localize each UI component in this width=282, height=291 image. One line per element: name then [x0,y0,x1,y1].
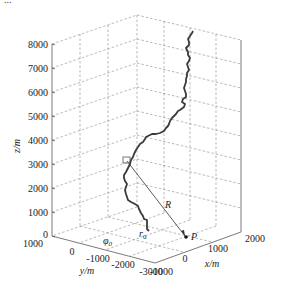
svg-text:8000: 8000 [28,39,48,50]
trajectory-line [124,31,193,231]
svg-text:1000: 1000 [23,238,43,249]
label-r0: r0 [139,228,147,241]
caption-fragment: ... [4,0,12,5]
svg-text:-2000: -2000 [111,259,134,270]
svg-text:0: 0 [183,253,188,264]
label-r: R [164,199,171,210]
svg-text:7000: 7000 [28,63,48,74]
svg-text:-1000: -1000 [150,266,173,277]
z-axis-label: z/m [11,139,22,154]
label-phi0: φ0 [103,235,113,248]
svg-text:2000: 2000 [28,183,48,194]
x-tick-labels: -1000 0 1000 2000 [150,233,265,277]
square-marker [123,157,130,163]
svg-text:3000: 3000 [28,159,48,170]
x-axis-label: x/m [204,258,219,269]
svg-text:2000: 2000 [245,233,265,244]
3d-trajectory-chart: ... [0,0,282,291]
z-tick-labels: 8000 7000 6000 5000 4000 3000 2000 1000 … [28,39,48,240]
svg-text:0: 0 [70,246,75,257]
r-line [127,161,185,236]
svg-text:5000: 5000 [28,111,48,122]
svg-text:4000: 4000 [28,135,48,146]
svg-text:-1000: -1000 [86,253,109,264]
svg-text:1000: 1000 [208,243,228,254]
svg-text:0: 0 [43,229,48,240]
label-p: P [190,231,197,242]
point-p [184,235,188,239]
y-axis-label: y/m [79,265,94,276]
svg-text:6000: 6000 [28,87,48,98]
svg-text:1000: 1000 [28,207,48,218]
